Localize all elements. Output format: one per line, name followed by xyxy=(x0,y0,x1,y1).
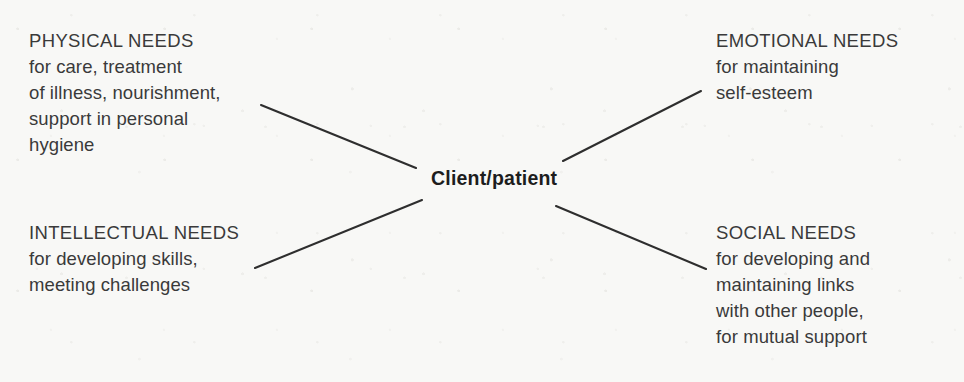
branch-intellectual-needs-text: INTELLECTUAL NEEDS for developing skills… xyxy=(29,220,239,298)
connector-intellectual xyxy=(255,200,422,268)
connector-emotional xyxy=(563,91,701,161)
concept-map-diagram: PHYSICAL NEEDS for care, treatment of il… xyxy=(0,0,964,382)
branch-physical-needs-text: PHYSICAL NEEDS for care, treatment of il… xyxy=(29,28,221,158)
branch-physical-needs: PHYSICAL NEEDS for care, treatment of il… xyxy=(29,28,221,158)
branch-physical-needs-line-2: for care, treatment xyxy=(29,54,221,80)
branch-social-needs: SOCIAL NEEDS for developing and maintain… xyxy=(716,220,870,350)
branch-social-needs-text: SOCIAL NEEDS for developing and maintain… xyxy=(716,220,870,350)
branch-social-needs-line-5: for mutual support xyxy=(716,324,870,350)
branch-emotional-needs-heading: EMOTIONAL NEEDS xyxy=(716,28,898,54)
branch-physical-needs-line-4: support in personal xyxy=(29,106,221,132)
branch-social-needs-heading: SOCIAL NEEDS xyxy=(716,220,870,246)
branch-physical-needs-line-5: hygiene xyxy=(29,132,221,158)
branch-intellectual-needs-heading: INTELLECTUAL NEEDS xyxy=(29,220,239,246)
branch-emotional-needs-line-2: for maintaining xyxy=(716,54,898,80)
branch-social-needs-line-4: with other people, xyxy=(716,298,870,324)
connector-physical xyxy=(261,105,416,168)
branch-intellectual-needs-line-3: meeting challenges xyxy=(29,272,239,298)
branch-social-needs-line-3: maintaining links xyxy=(716,272,870,298)
branch-emotional-needs-text: EMOTIONAL NEEDS for maintaining self-est… xyxy=(716,28,898,106)
branch-social-needs-line-2: for developing and xyxy=(716,246,870,272)
branch-intellectual-needs: INTELLECTUAL NEEDS for developing skills… xyxy=(29,220,239,298)
branch-intellectual-needs-line-2: for developing skills, xyxy=(29,246,239,272)
branch-physical-needs-heading: PHYSICAL NEEDS xyxy=(29,28,221,54)
connector-social xyxy=(556,206,706,269)
branch-physical-needs-line-3: of illness, nourishment, xyxy=(29,80,221,106)
center-node-label: Client/patient xyxy=(431,166,557,190)
branch-emotional-needs-line-3: self-esteem xyxy=(716,80,898,106)
branch-emotional-needs: EMOTIONAL NEEDS for maintaining self-est… xyxy=(716,28,898,106)
